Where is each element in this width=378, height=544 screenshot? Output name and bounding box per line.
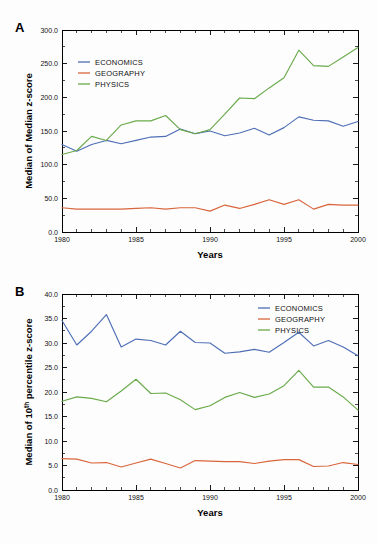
- y-axis-title: Median of 10th percentile z-score: [23, 318, 34, 465]
- y-tick-label: 0.0: [48, 487, 58, 494]
- y-title-part-before: Median of 10: [23, 408, 34, 466]
- x-tick-label: 1985: [128, 494, 144, 501]
- x-axis-title: Years: [197, 507, 222, 518]
- panel-b: B 0.05.010.015.020.025.030.035.040.01980…: [0, 272, 378, 544]
- x-tick-label: 1980: [54, 236, 70, 243]
- y-tick-label: 5.0: [48, 462, 58, 469]
- y-tick-label: 150.0: [40, 128, 58, 135]
- panel-b-label: B: [15, 284, 25, 299]
- legend-label-economics: ECONOMICS: [95, 58, 143, 67]
- y-tick-label: 300.0: [40, 27, 58, 34]
- y-tick-label: 30.0: [44, 340, 58, 347]
- y-tick-label: 20.0: [44, 389, 58, 396]
- y-tick-label: 250.0: [40, 60, 58, 67]
- x-tick-label: 1995: [276, 236, 292, 243]
- panel-a: A 0.050.0100.0150.0200.0250.0300.0198019…: [0, 0, 378, 272]
- series-line-geography: [62, 459, 358, 468]
- panel-a-label: A: [15, 20, 25, 35]
- x-tick-label: 1990: [202, 236, 218, 243]
- legend-label-physics: PHYSICS: [275, 326, 309, 335]
- x-tick-label: 1990: [202, 494, 218, 501]
- legend-label-geography: GEOGRAPHY: [275, 315, 325, 324]
- x-tick-label: 1995: [276, 494, 292, 501]
- panel-b-chart: 0.05.010.015.020.025.030.035.040.0198019…: [0, 272, 378, 544]
- y-tick-label: 0.0: [48, 229, 58, 236]
- y-tick-label: 200.0: [40, 94, 58, 101]
- y-tick-label: 100.0: [40, 161, 58, 168]
- y-tick-label: 25.0: [44, 364, 58, 371]
- y-axis-title: Median of Median z-score: [23, 73, 34, 189]
- x-axis-title: Years: [197, 249, 222, 260]
- figure-container: A 0.050.0100.0150.0200.0250.0300.0198019…: [0, 0, 378, 544]
- y-tick-label: 15.0: [44, 413, 58, 420]
- x-tick-label: 2000: [350, 236, 366, 243]
- y-title-part-after: percentile z-score: [23, 318, 34, 401]
- series-line-economics: [62, 117, 358, 151]
- x-tick-label: 1985: [128, 236, 144, 243]
- series-line-geography: [62, 200, 358, 211]
- series-line-physics: [62, 370, 358, 410]
- legend-label-physics: PHYSICS: [95, 80, 129, 89]
- y-tick-label: 35.0: [44, 315, 58, 322]
- y-axis-title-text: Median of Median z-score: [23, 73, 34, 189]
- y-axis-title-text: Median of 10th percentile z-score: [23, 318, 34, 465]
- y-tick-label: 40.0: [44, 291, 58, 298]
- x-tick-label: 2000: [350, 494, 366, 501]
- legend-label-economics: ECONOMICS: [275, 304, 323, 313]
- legend-label-geography: GEOGRAPHY: [95, 69, 145, 78]
- panel-a-chart: 0.050.0100.0150.0200.0250.0300.019801985…: [0, 0, 378, 272]
- y-tick-label: 10.0: [44, 438, 58, 445]
- x-tick-label: 1980: [54, 494, 70, 501]
- y-tick-label: 50.0: [44, 195, 58, 202]
